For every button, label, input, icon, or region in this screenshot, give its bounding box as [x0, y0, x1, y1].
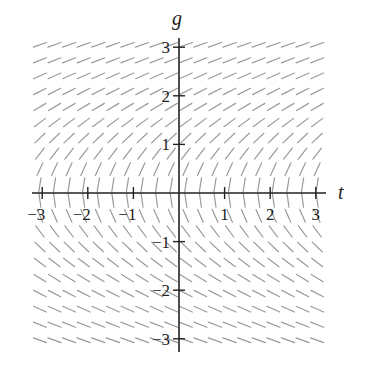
slope-segment	[121, 73, 134, 79]
slope-segment	[77, 58, 90, 63]
slope-segment	[36, 148, 44, 159]
slope-segment	[227, 163, 233, 176]
slope-segment	[209, 258, 220, 266]
slope-segment	[122, 118, 133, 126]
slope-segment	[77, 290, 89, 296]
slope-segment	[281, 338, 294, 343]
slope-segment	[281, 58, 294, 63]
slope-segment	[79, 242, 89, 252]
slope-segment	[121, 88, 133, 94]
slope-segment	[214, 193, 216, 207]
slope-segment	[180, 258, 191, 266]
slope-segment	[121, 42, 134, 47]
slope-segment	[62, 42, 75, 47]
slope-segment	[267, 73, 280, 79]
slope-segment	[136, 274, 148, 281]
slope-segment	[238, 290, 250, 296]
slope-segment	[121, 322, 134, 327]
slope-segment	[225, 242, 235, 252]
slope-segment	[78, 118, 89, 126]
slope-segment	[238, 73, 251, 79]
slope-segment	[209, 322, 222, 327]
slope-segment	[313, 226, 321, 237]
slope-segment	[63, 103, 75, 110]
slope-segment	[65, 226, 73, 237]
slope-segment	[194, 103, 206, 110]
slope-segment	[283, 133, 293, 143]
slope-segment	[267, 306, 280, 312]
slope-segment	[179, 73, 192, 79]
slope-segment	[48, 42, 61, 47]
slope-segment	[106, 338, 119, 343]
slope-segment	[136, 88, 148, 94]
slope-segment	[208, 42, 221, 47]
slope-segment	[282, 258, 293, 266]
slope-segment	[137, 133, 147, 143]
slope-segment	[139, 163, 145, 176]
slope-segment	[252, 42, 265, 47]
slope-segment	[121, 338, 134, 343]
slope-segment	[165, 58, 178, 63]
slope-segment	[63, 118, 74, 126]
slope-segment	[49, 118, 60, 126]
slope-segment	[34, 306, 47, 312]
slope-segment	[93, 258, 104, 266]
slope-segment	[108, 242, 118, 252]
slope-segment	[195, 242, 205, 252]
slope-segment	[258, 178, 260, 192]
slope-segment	[122, 258, 133, 266]
slope-segment	[240, 148, 248, 159]
slope-segment	[283, 242, 293, 252]
slope-segment	[239, 118, 250, 126]
slope-segment	[136, 322, 149, 327]
slope-segment	[122, 242, 132, 252]
slope-segment	[296, 73, 309, 79]
slope-segment	[185, 178, 187, 192]
slope-segment	[152, 148, 160, 159]
slope-segment	[151, 258, 162, 266]
slope-segment	[268, 242, 278, 252]
slope-segment	[253, 258, 264, 266]
slope-segment	[49, 133, 59, 143]
slope-segment	[138, 226, 146, 237]
slope-segment	[107, 290, 119, 296]
slope-segment	[141, 178, 143, 192]
slope-segment	[92, 42, 105, 47]
slope-segment	[121, 58, 134, 63]
slope-segment	[194, 338, 207, 343]
slope-segment	[125, 163, 131, 176]
slope-segment	[238, 88, 250, 94]
slope-segment	[66, 163, 72, 176]
slope-segment	[209, 274, 221, 281]
slope-segment	[121, 103, 133, 110]
slope-segment	[194, 322, 207, 327]
slope-segment	[151, 118, 162, 126]
slope-segment	[282, 118, 293, 126]
slope-segment	[106, 306, 119, 312]
slope-segment	[296, 338, 309, 343]
slope-segment	[300, 209, 306, 222]
slope-segment	[296, 88, 308, 94]
slope-segment	[196, 226, 204, 237]
slope-segment	[311, 306, 324, 312]
slope-segment	[80, 226, 88, 237]
slope-segment	[63, 73, 76, 79]
slope-segment	[150, 58, 163, 63]
slope-segment	[282, 73, 295, 79]
slope-segment	[180, 103, 192, 110]
slope-segment	[34, 73, 47, 79]
slope-segment	[156, 193, 158, 207]
slope-segment	[238, 322, 251, 327]
slope-segment	[95, 163, 101, 176]
slope-segment	[312, 133, 322, 143]
slope-segment	[170, 193, 172, 207]
slope-segment	[239, 133, 249, 143]
slope-segment	[49, 258, 60, 266]
slope-segment	[48, 88, 60, 94]
slope-segment	[225, 133, 235, 143]
slope-segment	[179, 58, 192, 63]
slope-segment	[212, 209, 218, 222]
slope-segment	[79, 148, 87, 159]
slope-segment	[252, 58, 265, 63]
slope-segment	[107, 258, 118, 266]
